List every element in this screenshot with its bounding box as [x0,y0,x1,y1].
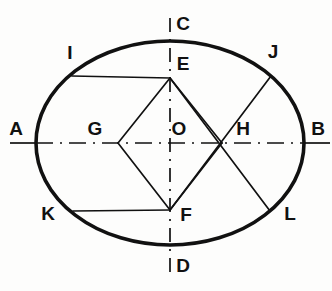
ellipse-construction-figure: A B C D E F G H O I J K L [0,0,332,291]
point-label-H: H [236,119,250,138]
point-label-D: D [176,256,190,275]
point-label-J: J [268,42,279,61]
point-label-A: A [9,119,23,138]
diagram-canvas [0,0,332,291]
chord-F-G-extended-to-K [73,210,170,211]
chord-E-G-extended-to-I [72,76,170,78]
segment-F-G [118,143,170,210]
point-label-C: C [176,14,190,33]
segment-E-G [118,78,170,143]
point-label-B: B [311,119,325,138]
center-lines [10,18,330,272]
point-label-G: G [88,119,103,138]
point-label-I: I [67,43,72,62]
point-label-O: O [172,119,187,138]
point-label-L: L [284,204,296,223]
point-label-K: K [41,204,55,223]
point-label-E: E [177,54,190,73]
point-label-F: F [180,205,192,224]
segment-F-H [170,143,222,210]
